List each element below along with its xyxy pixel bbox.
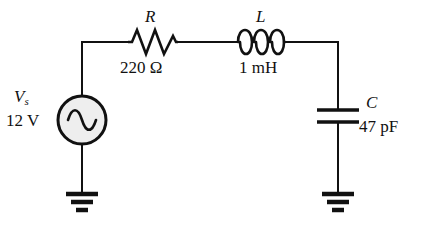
capacitor-value-label: 47 pF bbox=[359, 118, 398, 135]
inductor-value-label: 1 mH bbox=[239, 59, 277, 76]
capacitor-symbol-label: C bbox=[366, 94, 377, 111]
ground-icon-left bbox=[66, 194, 98, 210]
resistor-symbol-label: R bbox=[145, 8, 155, 25]
inductor-coil-icon bbox=[238, 30, 285, 54]
source-symbol-letter: V bbox=[14, 87, 24, 106]
capacitor-plates-icon bbox=[317, 110, 359, 122]
source-symbol-subscript: s bbox=[24, 95, 28, 107]
inductor-symbol-label: L bbox=[256, 8, 265, 25]
circuit-diagram: R 220 Ω L 1 mH C 47 pF Vs 12 V bbox=[0, 0, 421, 230]
resistor-zigzag-icon bbox=[128, 30, 178, 54]
resistor-value-label: 220 Ω bbox=[120, 59, 162, 76]
source-value-label: 12 V bbox=[6, 112, 39, 129]
ac-voltage-source-icon bbox=[58, 96, 106, 144]
ground-icon-right bbox=[322, 194, 354, 210]
circuit-schematic-svg bbox=[0, 0, 421, 230]
source-symbol-label: Vs bbox=[14, 88, 29, 107]
